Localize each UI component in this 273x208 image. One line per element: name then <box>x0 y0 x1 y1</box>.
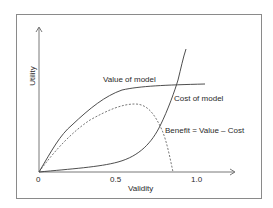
plot-area <box>0 0 273 208</box>
x-tick-0-5: 0.5 <box>110 176 121 184</box>
cost-curve <box>39 49 186 172</box>
x-axis-label: Validity <box>128 185 153 193</box>
benefit-label: Benefit = Value – Cost <box>165 127 244 135</box>
x-tick-1-0: 1.0 <box>191 176 202 184</box>
y-axis-label: Utility <box>29 66 37 86</box>
x-tick-0: 0 <box>36 176 40 184</box>
value-label: Value of model <box>103 76 156 84</box>
cost-label: Cost of model <box>174 95 223 103</box>
